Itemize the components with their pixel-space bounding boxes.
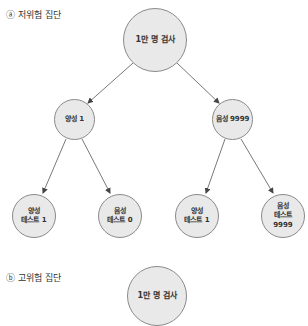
edge-positive-to-leaf1 xyxy=(43,139,66,193)
edge-root-to-negative xyxy=(177,63,219,103)
leaf-4-line1: 음성 xyxy=(277,202,289,211)
leaf-3-line1: 양성 xyxy=(191,207,203,216)
section-a-label: ⓐ 저위험 집단 xyxy=(6,8,61,21)
positive-node: 양성 1 xyxy=(54,99,95,140)
leaf-4-line3: 9999 xyxy=(273,221,292,230)
leaf-node-4: 음성 테스트 9999 xyxy=(261,194,305,238)
leaf-2-line1: 음성 xyxy=(114,207,126,216)
root-node-a: 1만 명 검사 xyxy=(123,8,187,72)
root-node-b-label: 1만 명 검사 xyxy=(137,291,176,302)
edge-negative-to-leaf4 xyxy=(241,139,273,193)
edge-negative-to-leaf3 xyxy=(206,139,225,193)
root-node-a-label: 1만 명 검사 xyxy=(135,35,174,46)
edge-root-to-positive xyxy=(88,63,133,103)
root-node-b: 1만 명 검사 xyxy=(127,266,187,326)
section-b-label: ⓑ 고위험 집단 xyxy=(6,271,61,284)
positive-node-label: 양성 1 xyxy=(65,115,84,124)
negative-node-label: 음성 9999 xyxy=(216,115,250,124)
leaf-3-line2: 테스트 1 xyxy=(184,216,209,225)
leaf-node-3: 양성 테스트 1 xyxy=(175,194,219,238)
leaf-4-line2: 테스트 xyxy=(274,211,292,220)
leaf-node-1: 양성 테스트 1 xyxy=(12,194,56,238)
leaf-1-line1: 양성 xyxy=(28,207,40,216)
edge-positive-to-leaf2 xyxy=(82,139,110,193)
leaf-2-line2: 테스트 0 xyxy=(107,216,132,225)
leaf-1-line2: 테스트 1 xyxy=(21,216,46,225)
negative-node: 음성 9999 xyxy=(212,99,253,140)
leaf-node-2: 음성 테스트 0 xyxy=(98,194,142,238)
